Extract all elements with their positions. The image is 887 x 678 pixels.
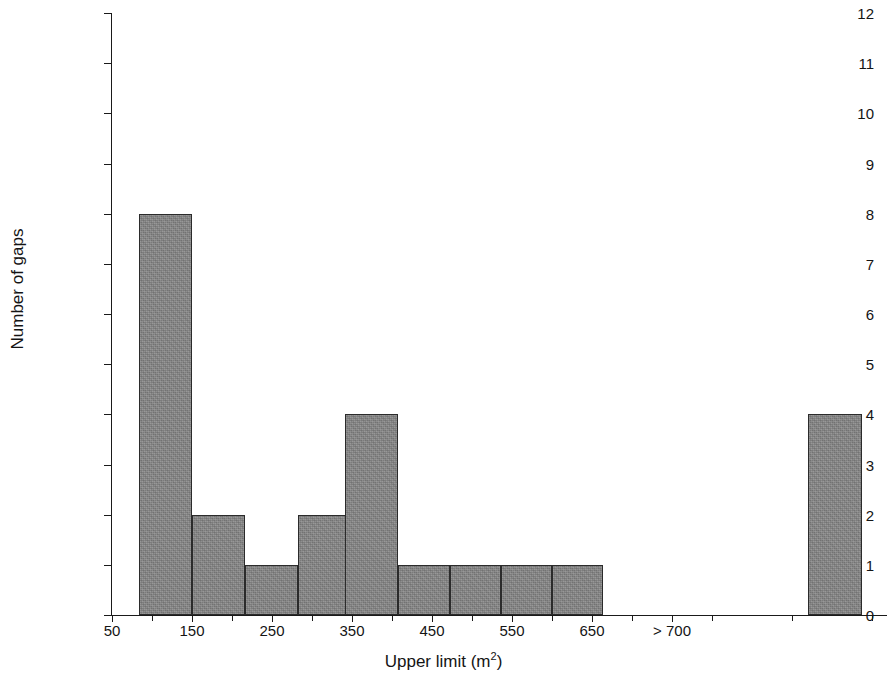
x-axis-tick-label: 350 — [339, 623, 364, 638]
x-axis-tick-label: 450 — [419, 623, 444, 638]
y-axis-tick — [104, 63, 111, 64]
histogram-chart: 0123456789101112 50150250350450550650> 7… — [0, 0, 887, 678]
histogram-bar — [398, 565, 450, 615]
y-axis-tick — [104, 264, 111, 265]
y-axis-tick — [104, 364, 111, 365]
x-axis-title: Upper limit (m2) — [0, 650, 887, 672]
histogram-bar — [345, 414, 398, 615]
histogram-bar — [501, 565, 552, 615]
histogram-bar — [552, 565, 603, 615]
y-axis-tick — [104, 565, 111, 566]
plot-area — [112, 13, 887, 615]
x-axis-minor-tick — [552, 616, 553, 621]
histogram-bar — [298, 515, 351, 615]
y-axis-tick — [104, 515, 111, 516]
histogram-bar — [139, 214, 192, 615]
x-axis-tick-label: 550 — [499, 623, 524, 638]
x-axis-minor-tick — [472, 616, 473, 621]
y-axis-tick — [104, 314, 111, 315]
y-axis-tick — [104, 414, 111, 415]
y-axis-title: Number of gaps — [8, 149, 28, 429]
x-axis-minor-tick — [392, 616, 393, 621]
x-axis-minor-tick — [152, 616, 153, 621]
x-axis-title-end: ) — [497, 652, 503, 671]
x-axis-minor-tick — [712, 616, 713, 621]
x-axis-tick-label: 50 — [104, 623, 121, 638]
y-axis-tick — [104, 13, 111, 14]
histogram-bar — [245, 565, 298, 615]
histogram-bar — [808, 414, 862, 615]
x-axis-tick-label: 650 — [579, 623, 604, 638]
x-axis-minor-tick — [312, 616, 313, 621]
histogram-bar — [192, 515, 245, 615]
x-axis-minor-tick — [792, 616, 793, 621]
y-axis-tick — [104, 465, 111, 466]
y-axis-tick — [104, 615, 111, 616]
x-axis-tick-label: 150 — [179, 623, 204, 638]
x-axis-tick-label: 250 — [259, 623, 284, 638]
x-axis-minor-tick — [232, 616, 233, 621]
x-axis-title-main: Upper limit (m — [385, 652, 491, 671]
x-axis-line — [111, 615, 887, 616]
histogram-bar — [450, 565, 501, 615]
x-axis-minor-tick — [632, 616, 633, 621]
y-axis-tick — [104, 214, 111, 215]
x-axis-minor-tick — [872, 616, 873, 621]
y-axis-tick — [104, 113, 111, 114]
y-axis-tick — [104, 164, 111, 165]
x-axis-tick-label: > 700 — [653, 623, 691, 638]
